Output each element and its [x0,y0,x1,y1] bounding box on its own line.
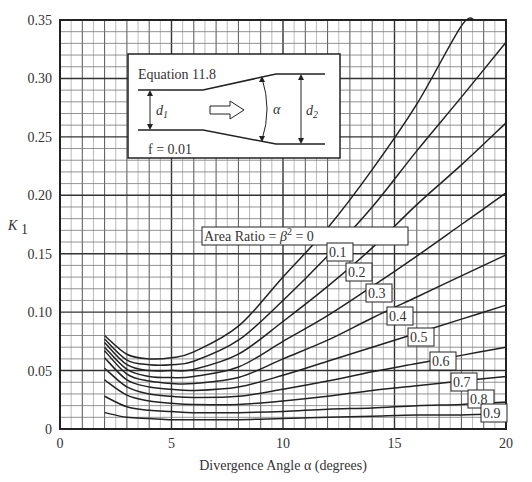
x-axis-label: Divergence Angle α (degrees) [199,458,367,474]
x-tick-label: 10 [276,436,290,451]
svg-text:0.7: 0.7 [453,375,471,390]
series-label-0: Area Ratio = β2 = 0 [202,226,408,245]
series-label-0.4: 0.4 [387,307,413,325]
y-axis-label: K 1 [7,218,28,237]
svg-text:0.4: 0.4 [389,309,407,324]
svg-text:Area Ratio = β2 = 0: Area Ratio = β2 = 0 [204,226,314,244]
y-tick-label: 0.05 [28,364,53,379]
y-tick-label: 0.15 [28,247,53,262]
y-tick-label: 0.35 [28,13,53,28]
svg-text:K: K [7,218,18,233]
y-tick-label: 0.25 [28,130,53,145]
svg-text:0.2: 0.2 [348,265,366,280]
series-label-0.9: 0.9 [481,404,507,422]
y-axis-ticks: 00.050.100.150.200.250.300.35 [28,13,53,437]
friction-label: f = 0.01 [148,142,192,157]
y-tick-label: 0.10 [28,305,53,320]
svg-text:0.9: 0.9 [483,406,501,421]
y-tick-label: 0.20 [28,188,53,203]
svg-text:1: 1 [21,222,28,237]
series-label-0.3: 0.3 [366,284,392,302]
inset-title: Equation 11.8 [138,67,216,82]
alpha-label: α [273,102,281,117]
svg-text:0.3: 0.3 [368,286,386,301]
x-axis-ticks: 05101520 [57,436,514,451]
equation-inset: Equation 11.8 d1 α d2 f = 0.01 [128,54,340,158]
series-label-0.5: 0.5 [408,328,434,346]
series-label-0.1: 0.1 [327,243,353,261]
x-tick-label: 5 [168,436,175,451]
svg-text:0.6: 0.6 [432,354,450,369]
x-tick-label: 0 [57,436,64,451]
series-label-0.7: 0.7 [451,373,477,391]
x-tick-label: 20 [499,436,513,451]
series-label-0.2: 0.2 [346,263,372,281]
svg-text:0.5: 0.5 [410,330,428,345]
y-tick-label: 0 [45,422,52,437]
y-tick-label: 0.30 [28,71,53,86]
x-tick-label: 15 [388,436,402,451]
k1-chart: 00.050.100.150.200.250.300.35 05101520 D… [0,0,532,482]
series-label-0.6: 0.6 [430,352,456,370]
svg-text:0.1: 0.1 [329,245,347,260]
